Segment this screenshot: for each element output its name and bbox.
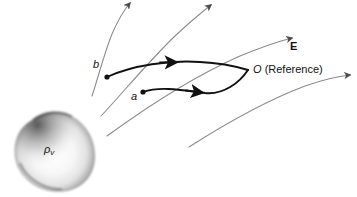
field-label-E: E [290,41,297,52]
point-b-label: b [93,59,99,70]
diagram-canvas [0,0,357,197]
reference-point-label: O (Reference) [253,64,323,75]
rho-subscript: v [50,148,54,157]
point-a-dot [140,89,145,94]
field-diagram: E O (Reference) b a ρv [0,0,357,197]
field-line-3 [107,38,292,136]
field-line-1 [92,3,130,96]
charge-density-label: ρv [44,144,54,157]
path-a-arrowhead [186,91,202,93]
path-a-to-reference [143,70,248,93]
field-line-4 [189,75,350,147]
path-b-to-reference [107,62,248,77]
charge-region-blob [15,112,94,191]
reference-point-symbol: O [253,63,262,75]
point-b-dot [104,74,109,79]
point-a-label: a [131,91,137,102]
reference-point-text: (Reference) [265,63,323,75]
